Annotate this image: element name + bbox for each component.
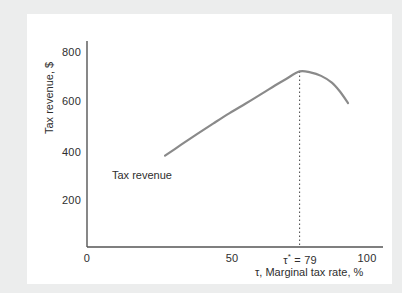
y-tick-label-600: 600 bbox=[47, 95, 81, 107]
x-tick-label-50: 50 bbox=[217, 252, 247, 264]
x-axis-title: τ, Marginal tax rate, % bbox=[255, 266, 363, 278]
y-tick-label-800: 800 bbox=[47, 46, 81, 58]
curve-label: Tax revenue bbox=[112, 169, 172, 181]
y-tick-label-400: 400 bbox=[47, 146, 81, 158]
tax-revenue-curve bbox=[165, 71, 348, 156]
chart-figure: Tax revenue, $ 800 600 400 200 0 50 τ* =… bbox=[27, 14, 392, 284]
x-tick-label-0: 0 bbox=[72, 252, 102, 264]
tau-star-value: = 79 bbox=[291, 254, 317, 266]
x-tick-label-100: 100 bbox=[352, 252, 382, 264]
x-tick-label-tau-star: τ* = 79 bbox=[270, 252, 330, 266]
y-tick-label-200: 200 bbox=[47, 194, 81, 206]
laffer-curve-plot bbox=[27, 14, 392, 284]
